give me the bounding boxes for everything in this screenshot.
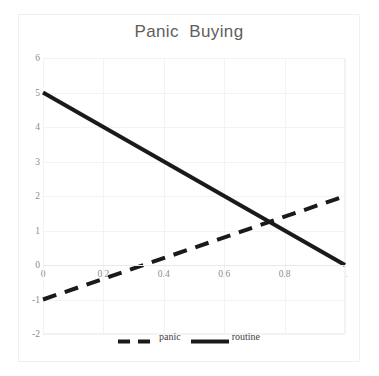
legend-label: routine [232, 331, 260, 342]
gridline-vertical [345, 58, 346, 334]
legend-swatch-dashed-icon [118, 332, 156, 341]
legend-swatch-solid-icon [191, 332, 229, 341]
legend-label: panic [159, 331, 181, 342]
chart-legend: panicroutine [18, 331, 360, 342]
legend-item-panic[interactable]: panic [118, 331, 181, 342]
plot-area [43, 58, 345, 334]
chart-container: Panic Buying 6543210-1-2 00.20.40.60.81 … [0, 0, 379, 376]
series-lines [43, 58, 345, 334]
series-line-panic [43, 196, 345, 300]
x-axis-line [43, 265, 345, 266]
series-line-routine [43, 93, 345, 266]
legend-item-routine[interactable]: routine [191, 331, 260, 342]
